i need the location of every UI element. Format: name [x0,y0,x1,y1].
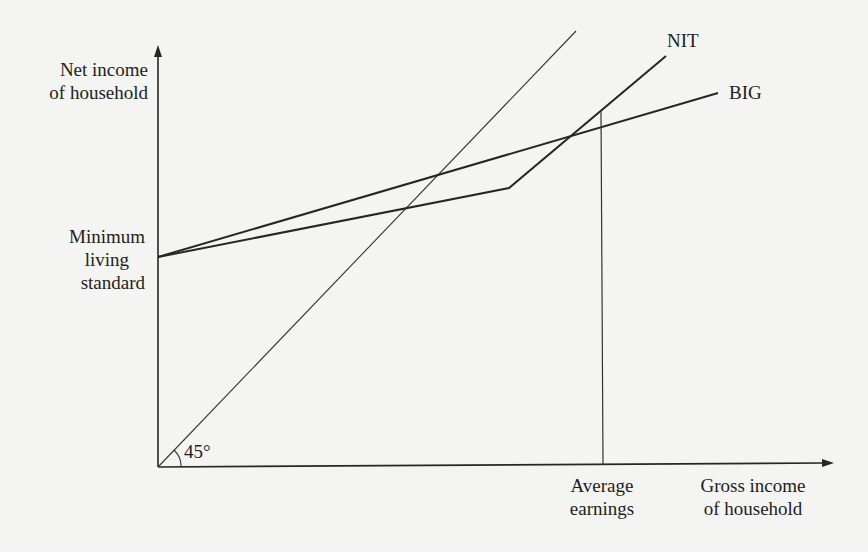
big-label: BIG [729,81,762,104]
intercept-label-line3: standard [40,271,145,294]
average-label-line2: earnings [566,497,638,520]
y-axis-label-line1: Net income [30,58,148,81]
big-line [158,93,718,257]
angle-label: 45° [184,440,211,463]
minimum-living-standard-label: Minimum living standard [40,225,145,294]
x-axis-label-line1: Gross income [692,474,814,497]
nit-label: NIT [667,29,699,52]
diagram-canvas: Net income of household Minimum living s… [0,0,868,552]
intercept-label-line2: living [40,248,145,271]
average-label-line1: Average [566,474,638,497]
forty-five-degree-line [159,31,576,466]
x-axis-label-line2: of household [692,497,814,520]
intercept-label-line1: Minimum [40,225,145,248]
nit-line [158,56,666,257]
y-axis-label-line2: of household [30,81,148,104]
x-axis-label: Gross income of household [692,474,814,520]
angle-arc-icon [174,450,181,466]
average-earnings-line [601,110,603,464]
y-axis-label: Net income of household [30,58,148,104]
average-earnings-label: Average earnings [566,474,638,520]
y-axis-arrow-icon [154,45,162,57]
x-axis [158,463,824,467]
x-axis-arrow-icon [822,459,834,467]
